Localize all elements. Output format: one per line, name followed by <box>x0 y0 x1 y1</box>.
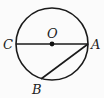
label-c: C <box>3 37 13 52</box>
center-point-o <box>50 42 55 47</box>
label-o: O <box>47 26 58 41</box>
chord-ab <box>41 44 88 79</box>
label-a: A <box>90 37 100 52</box>
label-b: B <box>31 82 42 97</box>
geometry-diagram: O C A B <box>0 0 104 98</box>
